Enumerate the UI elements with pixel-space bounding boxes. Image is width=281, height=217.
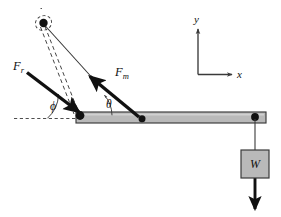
y-axis-label: y — [193, 13, 199, 25]
pivot-joint-dot — [76, 111, 85, 120]
x-axis-label: x — [236, 68, 242, 80]
reaction-force-label-subscript: r — [21, 65, 25, 75]
figure-container: Fr Fm ϕ θ x y W — [0, 0, 281, 217]
beam — [76, 112, 266, 123]
anchor-joint-dot — [39, 19, 47, 27]
muscle-force-arrow — [90, 77, 139, 118]
free-body-diagram: Fr Fm ϕ θ x y W — [0, 0, 281, 217]
angle-phi-label: ϕ — [50, 100, 56, 113]
beam-body — [76, 112, 266, 123]
muscle-force-label: Fm — [114, 65, 129, 81]
muscle-force-label-base: F — [114, 65, 123, 79]
muscle-insertion-joint-dot — [139, 115, 146, 122]
angle-theta-label: θ — [106, 98, 112, 110]
muscle-line-to-anchor — [45, 25, 92, 77]
dashed-alternate-lines — [41, 27, 80, 115]
reaction-force-label-base: F — [12, 59, 21, 73]
weight-label: W — [250, 157, 261, 171]
reaction-force-label: Fr — [12, 59, 25, 75]
dashed-line-outer — [41, 27, 75, 114]
coordinate-axes — [198, 29, 232, 75]
muscle-force-label-subscript: m — [123, 71, 129, 81]
